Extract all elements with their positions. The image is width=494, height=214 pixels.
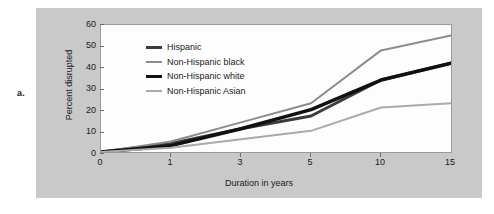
legend-item: Hispanic: [146, 42, 246, 53]
x-tick-label: 0: [97, 158, 102, 167]
y-tick-label: 30: [80, 84, 96, 93]
y-tick-mark: [100, 46, 104, 47]
x-tick-label: 5: [307, 158, 312, 167]
y-tick-label: 60: [80, 20, 96, 29]
legend-item: Non-Hispanic Asian: [146, 86, 246, 97]
y-tick-mark: [100, 24, 104, 25]
y-tick-label: 10: [80, 127, 96, 136]
chart-legend: HispanicNon-Hispanic blackNon-Hispanic w…: [146, 42, 246, 97]
x-tick-label: 1: [167, 158, 172, 167]
y-tick-mark: [100, 132, 104, 133]
x-tick-label: 15: [445, 158, 455, 167]
legend-line-swatch: [146, 61, 162, 63]
x-tick-mark: [170, 153, 171, 157]
y-axis-tick-labels: 0102030405060: [78, 24, 96, 153]
legend-label: Non-Hispanic white: [167, 72, 245, 81]
y-tick-label: 50: [80, 41, 96, 50]
figure-page: a. Percent disrupted 0102030405060 01351…: [0, 0, 494, 214]
legend-line-swatch: [146, 90, 162, 92]
y-tick-label: 20: [80, 106, 96, 115]
y-tick-mark: [100, 67, 104, 68]
y-tick-mark: [100, 89, 104, 90]
y-tick-mark: [100, 153, 104, 154]
legend-line-swatch: [146, 46, 162, 49]
legend-label: Hispanic: [167, 43, 202, 52]
legend-item: Non-Hispanic white: [146, 71, 246, 82]
panel-letter-label: a.: [17, 88, 25, 98]
y-axis-title: Percent disrupted: [64, 30, 74, 140]
x-tick-mark: [380, 153, 381, 157]
x-tick-label: 3: [237, 158, 242, 167]
x-tick-label: 10: [375, 158, 385, 167]
y-tick-label: 0: [80, 149, 96, 158]
legend-label: Non-Hispanic black: [167, 58, 245, 67]
legend-item: Non-Hispanic black: [146, 57, 246, 68]
legend-line-swatch: [146, 75, 162, 79]
figure-panel: Percent disrupted 0102030405060 01351015…: [36, 8, 482, 198]
y-tick-mark: [100, 110, 104, 111]
x-axis-tick-labels: 01351015: [100, 158, 452, 172]
legend-label: Non-Hispanic Asian: [167, 87, 246, 96]
x-axis-title: Duration in years: [36, 178, 482, 188]
x-tick-mark: [240, 153, 241, 157]
y-tick-label: 40: [80, 63, 96, 72]
x-tick-mark: [310, 153, 311, 157]
